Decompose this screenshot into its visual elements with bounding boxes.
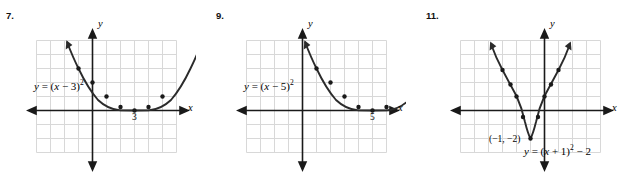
problem-11-graph: y x (−1, −2) (450, 22, 620, 182)
problem-9-graph: y x 5 (236, 22, 406, 182)
problem-7-graph: y x 3 (26, 22, 196, 182)
problem-9-vertex-label: 5 (370, 112, 375, 122)
problem-7-equation: y = (x − 3)2 (34, 78, 84, 92)
curve-points (314, 66, 388, 112)
worksheet-page: 7. (0, 0, 632, 195)
problem-7-y-axis-label: y (98, 18, 103, 29)
problem-9-y-axis-label: y (308, 18, 313, 29)
problem-11-x-axis-label: x (612, 102, 617, 113)
problem-9-equation: y = (x − 5)2 (244, 78, 294, 92)
problem-9-number: 9. (216, 10, 224, 21)
problem-11-y-axis-label: y (550, 18, 555, 29)
problem-11-svg (450, 22, 620, 182)
grid-lines (247, 41, 387, 153)
problem-7-vertex-label: 3 (132, 112, 137, 122)
problem-11: 11. (420, 0, 632, 195)
problem-11-number: 11. (426, 10, 439, 21)
grid-lines (461, 41, 601, 153)
parabola-curve (305, 43, 406, 111)
problem-11-equation: y = (x + 1)2 − 2 (524, 143, 591, 157)
problem-9-svg (236, 22, 406, 182)
problem-9-x-axis-label: x (398, 102, 403, 113)
axes (28, 30, 188, 170)
axes (238, 30, 398, 170)
curve-arrowheads (304, 40, 406, 102)
problem-9: 9. (210, 0, 418, 195)
problem-7-svg (26, 22, 196, 182)
problem-7-equation-text: y = (x − 3)2 (34, 80, 84, 92)
problem-7-number: 7. (6, 10, 14, 21)
problem-11-vertex-label: (−1, −2) (489, 134, 520, 144)
problem-9-equation-text: y = (x − 5)2 (244, 80, 294, 92)
problem-7-x-axis-label: x (188, 102, 193, 113)
problem-11-equation-text: y = (x + 1)2 − 2 (524, 145, 591, 157)
problem-7: 7. (0, 0, 208, 195)
